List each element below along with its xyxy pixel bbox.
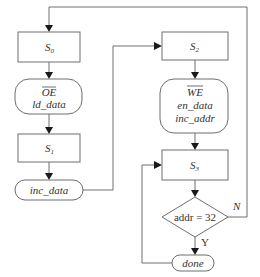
arrowhead-icon (154, 161, 162, 169)
state-s1: S1 (18, 134, 80, 162)
arrowhead-icon (45, 173, 53, 180)
svg-text:addr = 32: addr = 32 (174, 211, 216, 223)
arrowhead-icon (191, 248, 199, 255)
action-inc-data: inc_data (15, 180, 83, 200)
svg-text:inc_addr: inc_addr (175, 112, 215, 124)
flowchart-canvas: S0 OE ld_data S1 inc_data S2 WE en_data … (0, 0, 260, 277)
arrowhead-icon (45, 127, 53, 134)
yes-label: Y (201, 236, 209, 248)
arrowhead-icon (45, 25, 53, 32)
arrowhead-icon (154, 42, 162, 50)
arrowhead-icon (45, 72, 53, 79)
svg-text:OE: OE (42, 86, 57, 98)
svg-text:done: done (182, 257, 204, 269)
arrowhead-icon (191, 190, 199, 197)
action-oe-ld-data: OE ld_data (15, 79, 82, 114)
state-s3: S3 (162, 150, 228, 180)
action-we-en-data-inc-addr: WE en_data inc_addr (160, 79, 228, 133)
svg-text:en_data: en_data (177, 99, 213, 111)
arrowhead-icon (191, 72, 199, 79)
svg-text:ld_data: ld_data (32, 98, 66, 110)
edge-incdata-s2 (83, 46, 155, 190)
decision-addr-equals-32: addr = 32 (162, 197, 228, 237)
state-s0: S0 (18, 32, 80, 62)
action-done: done (172, 255, 214, 271)
state-s2: S2 (162, 32, 228, 60)
arrowhead-icon (191, 143, 199, 150)
no-label: N (232, 200, 241, 212)
svg-text:WE: WE (187, 86, 203, 98)
svg-text:inc_data: inc_data (30, 184, 69, 196)
